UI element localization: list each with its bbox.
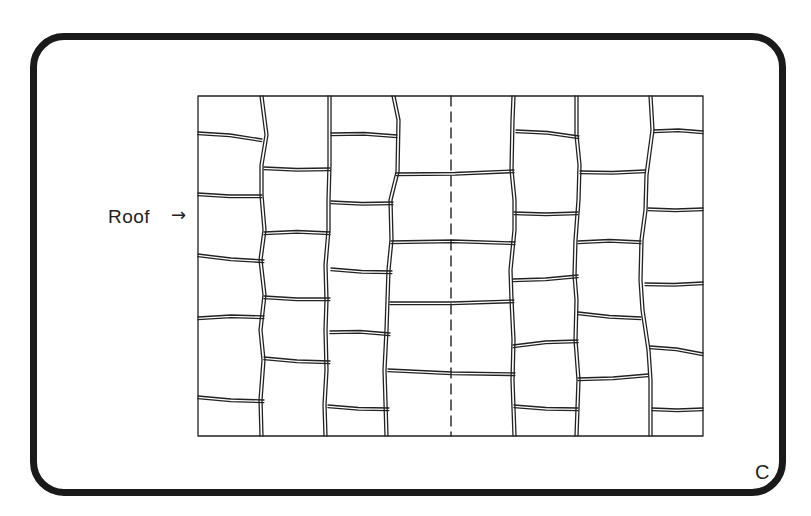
- tile-edge: [264, 299, 330, 301]
- tile-edge: [390, 303, 514, 305]
- tile-edge: [331, 268, 392, 271]
- tile-edge: [391, 240, 515, 242]
- tile-edge: [654, 132, 703, 134]
- tile-edge: [264, 296, 330, 298]
- tile-edge: [396, 170, 514, 173]
- column-separator-5: [573, 96, 578, 436]
- tile-edge: [654, 129, 703, 131]
- tile-edge: [652, 411, 703, 412]
- tile-edge: [198, 318, 264, 320]
- tile-edge: [328, 405, 389, 408]
- tile-edge: [516, 133, 579, 139]
- tile-edge: [331, 135, 397, 138]
- tile-edge: [198, 315, 264, 317]
- tile-edge: [580, 170, 645, 172]
- tile-edge: [264, 170, 330, 172]
- tile-edge: [645, 285, 703, 287]
- tile-edge: [198, 196, 262, 198]
- tile-edge: [578, 242, 641, 244]
- tile-edge: [514, 212, 578, 213]
- tile-edge: [331, 204, 393, 206]
- column-separator-1: [259, 96, 265, 436]
- tile-edge: [264, 231, 330, 233]
- tile-edge: [264, 167, 330, 169]
- column-separator-4: [512, 96, 516, 436]
- tile-edge: [330, 333, 390, 336]
- tile-edge: [390, 300, 514, 302]
- tile-edge: [648, 211, 703, 212]
- tile-edge: [578, 240, 641, 242]
- tile-edge: [580, 173, 645, 175]
- column-separator-6: [642, 96, 654, 436]
- tile-edge: [648, 208, 703, 209]
- tile-edge: [331, 201, 393, 203]
- tile-edge: [514, 405, 578, 408]
- tile-edge: [514, 215, 578, 216]
- tile-edge: [645, 282, 703, 284]
- tile-edge: [198, 193, 262, 195]
- tile-edge: [198, 254, 264, 260]
- tile-edge: [264, 233, 330, 235]
- tile-edge: [391, 243, 515, 245]
- roof-tile-drawing: [0, 0, 811, 516]
- column-separator-6: [639, 96, 651, 436]
- tile-edge: [652, 408, 703, 409]
- column-separator-3: [386, 96, 400, 436]
